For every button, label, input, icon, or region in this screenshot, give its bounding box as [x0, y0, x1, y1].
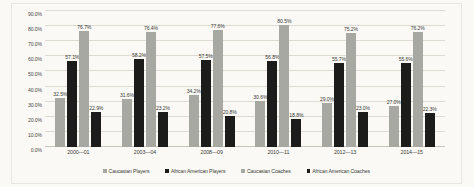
bar-slot: 58.2% [134, 11, 144, 147]
legend-label: Caucasian Coaches [247, 168, 291, 174]
bar-slot: 20.8% [225, 11, 235, 147]
bar-slot: 76.2% [413, 11, 423, 147]
bar-value-label: 80.5% [277, 18, 291, 24]
bar-value-label: 55.6% [399, 56, 413, 62]
bar-value-label: 76.4% [144, 25, 158, 31]
legend-item[interactable]: African American Coaches [307, 168, 370, 174]
bar-slot: 18.8% [291, 11, 301, 147]
bar-value-label: 34.2% [187, 88, 201, 94]
bar-group: 34.2%57.5%77.6%20.8% [178, 11, 245, 147]
bar-value-label: 77.6% [211, 23, 225, 29]
bar-slot: 22.3% [425, 11, 435, 147]
bar[interactable]: 80.5% [279, 25, 289, 147]
y-axis: 0.0%10.0%20.0%30.0%40.0%50.0%60.0%70.0%8… [11, 11, 45, 147]
bar[interactable]: 22.3% [425, 113, 435, 147]
x-axis-tick-label: 2010—11 [245, 149, 312, 161]
bar-slot: 57.1% [67, 11, 77, 147]
x-axis-tick-label: 2000—01 [45, 149, 112, 161]
bar-value-label: 76.7% [77, 24, 91, 30]
bar-slot: 76.4% [146, 11, 156, 147]
legend-swatch-icon [241, 169, 245, 173]
bar[interactable]: 30.6% [255, 101, 265, 147]
bar-chart-figure: 0.0%10.0%20.0%30.0%40.0%50.0%60.0%70.0%8… [0, 0, 474, 187]
bar[interactable]: 32.5% [55, 98, 65, 147]
bar-group: 31.6%58.2%76.4%23.2% [112, 11, 179, 147]
bar[interactable]: 77.6% [213, 30, 223, 147]
bar-value-label: 31.6% [120, 92, 134, 98]
bar[interactable]: 76.7% [79, 31, 89, 147]
bar-value-label: 56.8% [265, 54, 279, 60]
bar-slot: 56.8% [267, 11, 277, 147]
bar-value-label: 58.2% [132, 52, 146, 58]
bar-slot: 57.5% [201, 11, 211, 147]
bar-value-label: 22.9% [89, 105, 103, 111]
bar-value-label: 30.6% [253, 94, 267, 100]
bar-value-label: 23.0% [356, 105, 370, 111]
bar-group: 30.6%56.8%80.5%18.8% [245, 11, 312, 147]
bar-value-label: 18.8% [289, 112, 303, 118]
bar-value-label: 32.5% [53, 91, 67, 97]
legend-item[interactable]: African American Players [165, 168, 225, 174]
bar[interactable]: 29.0% [322, 103, 332, 147]
bar-slot: 23.2% [158, 11, 168, 147]
bar-group: 27.0%55.6%76.2%22.3% [378, 11, 445, 147]
bar[interactable]: 20.8% [225, 116, 235, 147]
bar[interactable]: 22.9% [91, 112, 101, 147]
bar-slot: 75.2% [346, 11, 356, 147]
bar-slot: 27.0% [389, 11, 399, 147]
plot-area: 32.5%57.1%76.7%22.9%31.6%58.2%76.4%23.2%… [45, 11, 445, 147]
x-axis-tick-label: 2008—09 [178, 149, 245, 161]
bar-value-label: 29.0% [320, 96, 334, 102]
bar-slot: 76.7% [79, 11, 89, 147]
bar-slot: 30.6% [255, 11, 265, 147]
bar-slot: 31.6% [122, 11, 132, 147]
bar-value-label: 57.1% [65, 54, 79, 60]
bar-slot: 55.6% [401, 11, 411, 147]
bar[interactable]: 75.2% [346, 33, 356, 147]
bar-slot: 55.7% [334, 11, 344, 147]
bar[interactable]: 58.2% [134, 59, 144, 147]
bar[interactable]: 31.6% [122, 99, 132, 147]
bar-value-label: 57.5% [199, 53, 213, 59]
bar[interactable]: 57.1% [67, 61, 77, 147]
bar-group: 32.5%57.1%76.7%22.9% [45, 11, 112, 147]
bar-slot: 32.5% [55, 11, 65, 147]
legend-swatch-icon [165, 169, 169, 173]
bar-value-label: 75.2% [344, 26, 358, 32]
legend-label: African American Coaches [312, 168, 370, 174]
bar-value-label: 23.2% [156, 105, 170, 111]
bar[interactable]: 76.4% [146, 32, 156, 147]
bar[interactable]: 23.0% [358, 112, 368, 147]
bar[interactable]: 57.5% [201, 60, 211, 147]
legend-swatch-icon [103, 169, 107, 173]
chart-legend: Caucasian PlayersAfrican American Player… [11, 168, 462, 174]
legend-item[interactable]: Caucasian Players [103, 168, 149, 174]
bar[interactable]: 55.6% [401, 63, 411, 147]
bar[interactable]: 27.0% [389, 106, 399, 147]
bar-slot: 22.9% [91, 11, 101, 147]
bar[interactable]: 55.7% [334, 63, 344, 147]
bar[interactable]: 76.2% [413, 32, 423, 147]
legend-item[interactable]: Caucasian Coaches [241, 168, 290, 174]
bar-value-label: 76.2% [411, 25, 425, 31]
bar[interactable]: 56.8% [267, 61, 277, 147]
bar-group: 29.0%55.7%75.2%23.0% [312, 11, 379, 147]
bar-slot: 29.0% [322, 11, 332, 147]
bar-slot: 80.5% [279, 11, 289, 147]
legend-label: Caucasian Players [109, 168, 150, 174]
bar-slot: 34.2% [189, 11, 199, 147]
bar[interactable]: 34.2% [189, 95, 199, 147]
legend-label: African American Players [171, 168, 226, 174]
bar-value-label: 20.8% [223, 109, 237, 115]
bar-slot: 23.0% [358, 11, 368, 147]
bar[interactable]: 18.8% [291, 119, 301, 147]
bar-value-label: 27.0% [387, 99, 401, 105]
x-axis: 2000—012003—042008—092010—112012—132014—… [45, 149, 445, 161]
bar-value-label: 22.3% [423, 106, 437, 112]
legend-swatch-icon [307, 169, 311, 173]
x-axis-tick-label: 2012—13 [312, 149, 379, 161]
bar-value-label: 55.7% [332, 56, 346, 62]
bar-groups: 32.5%57.1%76.7%22.9%31.6%58.2%76.4%23.2%… [45, 11, 445, 147]
bar-slot: 77.6% [213, 11, 223, 147]
bar[interactable]: 23.2% [158, 112, 168, 147]
